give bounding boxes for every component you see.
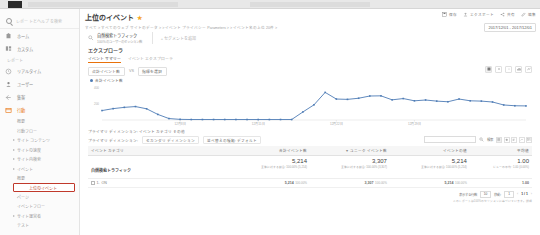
address-bar[interactable] bbox=[28, 2, 178, 7]
sidebar-sublabel: イベントフロー bbox=[17, 203, 45, 209]
sort-type-selector[interactable]: 並べ替えの種類: デフォルト bbox=[203, 136, 261, 144]
sidebar-section-reports: レポート bbox=[0, 55, 79, 65]
sidebar-item-users[interactable]: ユーザー bbox=[0, 78, 79, 91]
star-icon[interactable]: ★ bbox=[137, 14, 142, 21]
sidebar-item-acquisition[interactable]: 集客 bbox=[0, 91, 79, 104]
svg-text:12月29日: 12月29日 bbox=[408, 122, 421, 126]
sidebar-subitem-site-speed[interactable]: サイトの速度 bbox=[0, 145, 79, 155]
column-header-event-category[interactable]: イベント カテゴリ bbox=[88, 146, 239, 156]
sidebar-item-realtime[interactable]: リアルタイム bbox=[0, 65, 79, 78]
sidebar-subitem-overview[interactable]: 概要 bbox=[0, 117, 79, 127]
search-button[interactable]: 検索 bbox=[487, 137, 493, 142]
goto-label: 移動: bbox=[494, 192, 501, 197]
metric-selector-secondary[interactable]: 指標を選択 bbox=[138, 67, 167, 76]
segment-subtitle: 100%のユーザーのセッション数 bbox=[97, 39, 142, 44]
table-view-icon[interactable] bbox=[496, 137, 502, 143]
day-view-icon[interactable] bbox=[485, 66, 492, 73]
month-view-icon[interactable] bbox=[505, 66, 512, 73]
sidebar-subitem-events-flow[interactable]: イベントフロー bbox=[0, 202, 79, 212]
column-header-total-events[interactable]: 合計イベント数 bbox=[239, 146, 310, 156]
column-header-event-value[interactable]: イベントの値 bbox=[390, 146, 470, 156]
save-button[interactable]: 保存 bbox=[442, 12, 457, 17]
date-range-picker[interactable]: 2017/12/01 - 2017/12/01 bbox=[484, 23, 536, 32]
sidebar-subitem-events[interactable]: イベント bbox=[0, 164, 79, 174]
edit-button[interactable]: 編集 bbox=[521, 12, 536, 17]
view-type-buttons bbox=[496, 137, 532, 143]
row-unique-events-cell: 3,307100.00% bbox=[310, 179, 390, 188]
totals-average-value: 1.00 bbox=[473, 158, 529, 164]
events-line-chart[interactable]: 合計イベント数 40020012月8日12月15日12月22日12月29日 bbox=[88, 79, 532, 127]
sidebar-item-behavior[interactable]: 行動 bbox=[0, 104, 79, 117]
sidebar-label: ユーザー bbox=[17, 81, 33, 87]
browser-chrome bbox=[0, 0, 540, 9]
share-button[interactable]: 共有 bbox=[500, 12, 515, 17]
save-label: 保存 bbox=[449, 12, 457, 17]
sidebar-subitem-top-events[interactable]: 上位のイベント bbox=[13, 183, 75, 192]
metric-selector-primary[interactable]: 合計イベント数 bbox=[88, 67, 125, 76]
custom-icon bbox=[5, 45, 12, 52]
performance-view-icon[interactable] bbox=[511, 137, 517, 143]
svg-text:200: 200 bbox=[94, 102, 99, 106]
edit-icon bbox=[521, 12, 526, 17]
totals-unique-events-cell: 3,307 全体に対する割合: 100.00% (3,307) bbox=[310, 156, 390, 179]
tab-event-summary[interactable]: イベント サマリー bbox=[88, 56, 121, 63]
sidebar-subitem-events-overview[interactable]: 概要 bbox=[0, 174, 79, 184]
export-label: エクスポート bbox=[470, 12, 494, 17]
totals-average-value-note: ビューの平均: 1.00 (0.00%) bbox=[473, 165, 529, 169]
week-view-icon[interactable] bbox=[495, 66, 502, 73]
sidebar-subitem-site-content[interactable]: サイト コンテンツ bbox=[0, 136, 79, 146]
column-header-average-value[interactable]: 平均値 bbox=[470, 146, 532, 156]
primary-dimension-label: プライマリ ディメンション: イベント カテゴリ その他 bbox=[88, 129, 532, 134]
search-input[interactable] bbox=[424, 136, 476, 143]
column-header-unique-events[interactable]: ▼ユニーク イベント数 bbox=[310, 146, 390, 156]
segment-chip[interactable]: 自然検索トラフィック 100%のユーザーのセッション数 bbox=[88, 32, 153, 44]
sidebar-subitem-experiments[interactable]: テスト bbox=[0, 221, 79, 231]
row-unique-events-pct: 100.00% bbox=[375, 181, 387, 185]
comparison-view-icon[interactable] bbox=[519, 137, 525, 143]
totals-row: 自然検索トラフィック 5,214 全体に対する割合: 100.00% (5,21… bbox=[88, 156, 532, 179]
secondary-dimension-button[interactable]: セカンダリ ディメンション bbox=[142, 136, 199, 144]
sidebar-subitem-publisher[interactable]: サイト運営者 bbox=[0, 211, 79, 221]
row-event-value: 5,214 bbox=[444, 181, 453, 185]
row-index: 1. bbox=[97, 181, 100, 185]
totals-event-value: 5,214 bbox=[393, 158, 467, 164]
breadcrumb[interactable]: すべて > すべてのウェブ サイトのデータ > > イベント プライバシー Pa… bbox=[85, 25, 535, 30]
metric-selector-row: 合計イベント数 VS 指標を選択 bbox=[88, 67, 532, 76]
sidebar-subitem-pages[interactable]: ページ bbox=[0, 192, 79, 202]
sidebar-item-custom[interactable]: カスタム bbox=[0, 42, 79, 55]
search-icon[interactable] bbox=[479, 137, 484, 142]
sidebar-subitem-behavior-flow[interactable]: 行動フロー bbox=[0, 126, 79, 136]
export-button[interactable]: エクスポート bbox=[463, 12, 494, 17]
table-row[interactable]: 1. ON 5,214100.00% 3,307100.00% 5,214100… bbox=[88, 179, 532, 188]
sidebar-subitem-site-search[interactable]: サイト内検索 bbox=[0, 155, 79, 165]
events-table: イベント カテゴリ 合計イベント数 ▼ユニーク イベント数 イベントの値 平均値… bbox=[88, 146, 532, 188]
totals-unique-events-note: 全体に対する割合: 100.00% (3,307) bbox=[313, 165, 387, 169]
percent-view-icon[interactable] bbox=[504, 137, 510, 143]
sidebar-item-conversions[interactable]: コンバージョン bbox=[0, 231, 79, 235]
tab-event-explorer[interactable]: イベント エクスプローラ bbox=[128, 56, 173, 63]
segment-icon bbox=[88, 35, 94, 41]
sidebar-search[interactable]: レポートとヘルプを検索 bbox=[0, 13, 79, 29]
next-page-icon[interactable]: › bbox=[531, 192, 532, 196]
sidebar-sublabel: 概要 bbox=[17, 175, 25, 181]
row-checkbox[interactable] bbox=[91, 181, 95, 185]
rows-per-page-select[interactable]: 10 bbox=[480, 191, 492, 198]
sidebar-sublabel: ページ bbox=[17, 194, 29, 200]
browser-tab[interactable] bbox=[8, 1, 22, 8]
sidebar-item-home[interactable]: ホーム bbox=[0, 29, 79, 42]
explorer-tabs: イベント サマリー イベント エクスプローラ bbox=[88, 56, 532, 63]
dimension-chip-label: プライマリ ディメンション: bbox=[88, 138, 138, 143]
line-chart-icon[interactable] bbox=[515, 66, 522, 73]
add-segment-button[interactable]: + セグメントを追加 bbox=[161, 35, 196, 41]
row-label[interactable]: ON bbox=[102, 181, 107, 185]
chart-toolbar bbox=[485, 66, 532, 73]
chevron-down-icon bbox=[13, 168, 15, 170]
acquisition-icon bbox=[5, 94, 12, 101]
pivot-view-icon[interactable] bbox=[526, 137, 532, 143]
prev-page-icon[interactable]: ‹ bbox=[517, 192, 518, 196]
goto-page-input[interactable]: 1 bbox=[504, 191, 514, 198]
column-label: ユニーク イベント数 bbox=[350, 149, 387, 153]
motion-chart-icon[interactable] bbox=[525, 66, 532, 73]
chevron-right-icon bbox=[13, 215, 15, 217]
chevron-right-icon bbox=[13, 139, 15, 141]
